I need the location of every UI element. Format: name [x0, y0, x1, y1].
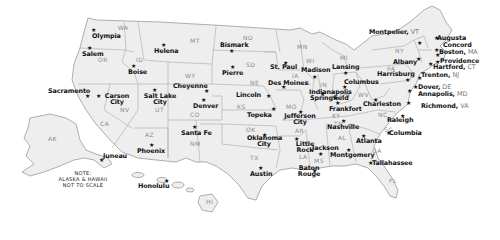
capital-name: Columbia — [389, 129, 422, 137]
capital-name: St. Paul — [270, 63, 297, 71]
capital-name: Denver — [193, 102, 218, 110]
capital-name: Charleston — [363, 100, 401, 108]
capital-name: Jefferson City — [284, 112, 316, 126]
capital-label-santa-fe: Santa Fe — [181, 130, 212, 136]
capital-state-abbr: CT — [467, 63, 475, 71]
capital-name: Pierre — [222, 69, 243, 77]
capital-label-sacramento: Sacramento — [48, 88, 90, 94]
capital-name: Honolulu — [138, 182, 169, 190]
capital-label-hartford: Hartford, CT — [433, 64, 476, 70]
capital-label-raleigh: Raleigh — [387, 117, 413, 123]
capital-label-atlanta: Atlanta — [356, 138, 382, 144]
capital-state-abbr: MA — [468, 48, 478, 56]
capital-name: Cheyenne — [173, 82, 208, 90]
capital-label-frankfort: Frankfort — [329, 106, 362, 112]
capital-label-salt-lake-city: Salt Lake City — [143, 93, 177, 106]
state-abbr-ky: KY — [332, 113, 340, 119]
capital-label-montgomery: Montgomery — [330, 152, 375, 158]
state-abbr-ny: NY — [395, 48, 404, 54]
capital-label-topeka: Topeka — [247, 112, 272, 118]
capital-label-charleston: Charleston — [363, 101, 401, 107]
state-abbr-tx: TX — [250, 155, 259, 161]
state-abbr-nv: NV — [120, 107, 130, 113]
capital-name: Lansing — [332, 63, 359, 71]
capital-name: Baton Rouge — [298, 164, 320, 178]
capital-name: Olympia — [92, 32, 121, 40]
capital-label-trenton: Trenton, NJ — [421, 72, 459, 78]
state-abbr-mt: MT — [190, 38, 200, 44]
capital-name: Madison — [301, 66, 330, 74]
state-abbr-wv: WV — [358, 92, 369, 98]
capital-name: Hartford — [433, 63, 463, 71]
state-abbr-ar: AR — [295, 128, 304, 134]
state-abbr-id: ID — [136, 57, 143, 63]
capital-star-icon: ★ — [406, 100, 411, 106]
capital-name: Juneau — [103, 152, 127, 160]
capital-name: Raleigh — [387, 116, 413, 124]
state-abbr-ut: UT — [155, 107, 164, 113]
capital-label-st-paul: St. Paul — [270, 64, 297, 70]
capital-name: Annapolis — [418, 90, 453, 98]
state-abbr-mn: MN — [297, 44, 308, 50]
capital-name: Santa Fe — [181, 129, 212, 137]
state-abbr-mi: MI — [340, 55, 348, 61]
note-line: NOT TO SCALE — [48, 182, 118, 188]
capital-name: Boise — [128, 68, 147, 76]
state-abbr-ak: AK — [48, 136, 57, 142]
capital-label-boston: Boston, MA — [439, 49, 478, 55]
capital-star-icon: ★ — [271, 106, 276, 112]
capital-label-olympia: Olympia — [92, 33, 121, 39]
capital-label-harrisburg: Harrisburg — [377, 71, 415, 77]
capital-name: Columbus — [344, 78, 379, 86]
capital-name: Frankfort — [329, 105, 362, 113]
capital-name: Phoenix — [137, 147, 165, 155]
capital-name: Austin — [250, 170, 273, 178]
capital-name: Des Moines — [268, 79, 308, 87]
capital-label-denver: Denver — [193, 103, 218, 109]
capital-star-icon: ★ — [312, 74, 317, 80]
capital-label-little-rock: Little Rock — [288, 141, 322, 154]
capital-label-honolulu: Honolulu — [138, 183, 169, 189]
capital-label-austin: Austin — [250, 171, 273, 177]
capital-label-bismark: Bismark — [220, 42, 249, 48]
capital-name: Salt Lake City — [144, 92, 176, 106]
capital-label-lansing: Lansing — [332, 64, 359, 70]
capital-name: Richmond — [421, 102, 456, 110]
capital-name: Sacramento — [48, 87, 90, 95]
capital-label-montpelier: Montpelier, VT — [369, 29, 419, 35]
capital-label-helena: Helena — [154, 48, 178, 54]
state-abbr-ks: KS — [237, 104, 246, 110]
capital-label-phoenix: Phoenix — [137, 148, 165, 154]
capital-label-columbus: Columbus — [344, 79, 379, 85]
capital-name: Bismark — [220, 41, 249, 49]
capital-star-icon: ★ — [266, 93, 271, 99]
state-abbr-nm: NM — [190, 141, 201, 147]
state-abbr-ok: OK — [246, 127, 256, 133]
capital-state-abbr: MD — [457, 90, 467, 98]
state-abbr-la: LA — [299, 154, 308, 160]
capital-label-lincoln: Lincoln — [236, 92, 261, 98]
capital-label-madison: Madison — [301, 67, 330, 73]
capital-label-richmond: Richmond, VA — [421, 103, 468, 109]
scale-note: NOTE: ALASKA & HAWAII NOT TO SCALE — [48, 170, 118, 188]
capital-label-oklahoma-city: Oklahoma City — [247, 135, 281, 148]
capital-state-abbr: VA — [460, 102, 468, 110]
capital-name: Tallahassee — [372, 159, 413, 167]
capital-name: Boston — [439, 48, 463, 56]
capital-state-abbr: NJ — [452, 71, 458, 79]
capital-name: Montgomery — [330, 151, 375, 159]
capital-name: Lincoln — [236, 91, 261, 99]
capital-star-icon: ★ — [407, 88, 412, 94]
capital-label-cheyenne: Cheyenne — [173, 83, 208, 89]
capital-label-jefferson-city: Jefferson City — [283, 113, 317, 126]
state-abbr-ca: CA — [100, 121, 109, 127]
capital-label-baton-rouge: Baton Rouge — [292, 165, 326, 178]
state-abbr-co: CO — [190, 112, 200, 118]
state-abbr-hi: HI — [206, 199, 213, 205]
capital-label-des-moines: Des Moines — [268, 80, 308, 86]
capital-name: Oklahoma City — [247, 134, 282, 148]
state-abbr-az: AZ — [145, 132, 154, 138]
capital-label-salem: Salem — [82, 51, 104, 57]
capital-label-pierre: Pierre — [222, 70, 243, 76]
state-abbr-fl: FL — [389, 178, 397, 184]
